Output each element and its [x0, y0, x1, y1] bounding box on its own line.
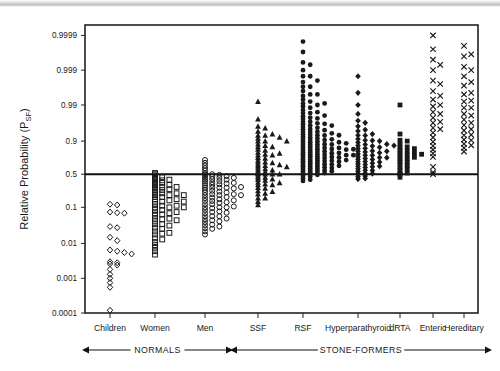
top-band [0, 0, 500, 7]
data-point [398, 103, 403, 108]
data-point [329, 123, 334, 128]
data-point [329, 137, 334, 142]
data-point [315, 92, 320, 97]
data-point [315, 116, 320, 121]
data-point [329, 131, 334, 136]
arrow-right-icon [485, 347, 492, 354]
y-tick-label: 0.9999 [52, 31, 77, 40]
data-point [351, 147, 356, 152]
data-point [412, 146, 417, 151]
data-point [301, 80, 306, 85]
data-point [322, 138, 327, 143]
data-point [398, 132, 403, 137]
data-point [308, 105, 313, 110]
svg-text:Relative Probability (PSF): Relative Probability (PSF) [18, 108, 33, 230]
y-tick-label: 0.99 [61, 101, 77, 110]
group-brackets: NORMALSSTONE-FORMERS [82, 345, 492, 355]
data-point [301, 60, 306, 65]
data-point [308, 92, 313, 97]
data-point [301, 89, 306, 94]
figure-container: 0.99990.9990.990.90.50.10.010.0010.0001R… [0, 0, 500, 371]
y-axis-title: Relative Probability (PSF) [18, 108, 33, 230]
group-label: NORMALS [134, 345, 180, 355]
x-tick-label: Hyperparathyroid [325, 323, 391, 333]
x-tick-label: Children [94, 323, 126, 333]
data-point [329, 169, 334, 174]
y-tick-label: 0.0001 [52, 309, 77, 318]
data-point [301, 179, 306, 184]
data-point [322, 128, 327, 133]
data-point [308, 84, 313, 89]
data-point [308, 115, 313, 120]
data-point [315, 110, 320, 115]
data-point [405, 144, 410, 149]
data-point [308, 177, 313, 182]
y-axis: 0.99990.9990.990.90.50.10.010.0010.0001 [52, 31, 85, 318]
data-point [308, 62, 313, 67]
data-point [301, 68, 306, 73]
data-point [337, 133, 342, 138]
data-point [322, 171, 327, 176]
x-tick-label: Enteric [420, 323, 447, 333]
data-point [337, 151, 342, 156]
y-tick-label: 0.5 [66, 170, 78, 179]
data-point [344, 141, 349, 146]
data-point [301, 50, 306, 55]
data-point [419, 152, 424, 157]
data-point [315, 172, 320, 177]
data-point [337, 155, 342, 160]
data-point [301, 39, 306, 44]
data-point [405, 139, 410, 144]
data-point [405, 171, 410, 176]
group-label: STONE-FORMERS [320, 345, 402, 355]
x-axis: ChildrenWomenMenSSFRSFHyperparathyroiddR… [94, 313, 485, 333]
data-point [412, 155, 417, 160]
y-tick-label: 0.01 [61, 239, 77, 248]
data-point [344, 153, 349, 158]
y-tick-label: 0.9 [66, 137, 78, 146]
data-point [301, 74, 306, 79]
plot-frame [85, 25, 478, 313]
data-point [315, 78, 320, 83]
x-tick-label: RSF [294, 323, 311, 333]
x-tick-label: SSF [250, 323, 267, 333]
data-point [315, 121, 320, 126]
data-point [337, 163, 342, 168]
data-point [315, 103, 320, 108]
data-point [337, 140, 342, 145]
data-point [329, 142, 334, 147]
data-point [301, 84, 306, 89]
y-tick-label: 0.001 [57, 274, 78, 283]
y-tick-label: 0.999 [57, 66, 78, 75]
data-point [308, 111, 313, 116]
scatter-plot: 0.99990.9990.990.90.50.10.010.0010.0001R… [0, 0, 500, 371]
x-tick-label: Hereditary [444, 323, 484, 333]
x-tick-label: Men [197, 323, 214, 333]
data-point [322, 133, 327, 138]
data-point [337, 146, 342, 151]
data-point [322, 121, 327, 126]
arrow-left-icon [82, 347, 89, 354]
data-point [322, 113, 327, 118]
arrow-left-icon [230, 347, 237, 354]
x-tick-label: Women [140, 323, 170, 333]
data-point [329, 147, 334, 152]
x-tick-label: dRTA [389, 323, 410, 333]
data-point [398, 175, 403, 180]
data-point [308, 99, 313, 104]
data-point [308, 74, 313, 79]
y-tick-label: 0.1 [66, 203, 78, 212]
data-point [344, 147, 349, 152]
data-point [351, 153, 356, 158]
data-point [322, 101, 327, 106]
data-point [344, 158, 349, 163]
